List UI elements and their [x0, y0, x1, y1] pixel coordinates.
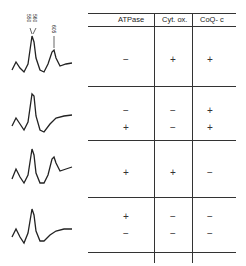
header-cyt-ox: Cyt. ox. — [162, 15, 187, 24]
spectrum-4 — [8, 203, 76, 248]
column-divider-1 — [154, 13, 155, 263]
peak-label-560: 560 — [32, 14, 38, 22]
spectrum-curve-2 — [8, 88, 76, 133]
row4-atpase-a: + — [116, 212, 136, 222]
spectrum-1 — [8, 28, 76, 73]
row1-coqc: + — [200, 55, 220, 65]
spectrum-curve-3 — [8, 143, 76, 188]
row2-coqc-a: + — [200, 106, 220, 116]
row4-coqc-a: − — [200, 212, 220, 222]
row2-cytox-a: − — [163, 106, 183, 116]
table-bottom-rule — [88, 252, 236, 253]
spectrum-curve-1 — [8, 28, 76, 73]
row4-cytox-b: − — [163, 229, 183, 239]
row2-atpase-b: + — [116, 123, 136, 133]
row4-atpase-b: − — [116, 229, 136, 239]
column-divider-2 — [192, 13, 193, 263]
peak-label-605: 605 — [51, 25, 57, 33]
row3-cytox: + — [163, 168, 183, 178]
spectrum-curve-4 — [8, 203, 76, 248]
spectrum-3 — [8, 143, 76, 188]
row-rule-3 — [88, 197, 236, 198]
header-atpase: ATPase — [118, 15, 144, 24]
spectrum-2 — [8, 88, 76, 133]
row1-atpase: − — [116, 55, 136, 65]
row2-cytox-b: − — [163, 123, 183, 133]
header-coq-c: CoQ- c — [200, 15, 224, 24]
row2-atpase-a: − — [116, 106, 136, 116]
header-rule — [88, 26, 236, 27]
row2-coqc-b: + — [200, 123, 220, 133]
row3-atpase: + — [116, 168, 136, 178]
row3-coqc: − — [200, 168, 220, 178]
row-rule-1 — [88, 86, 236, 87]
row4-cytox-a: − — [163, 212, 183, 222]
table-top-rule — [88, 13, 236, 14]
row1-cytox: + — [163, 55, 183, 65]
row-rule-2 — [88, 140, 236, 141]
row4-coqc-b: − — [200, 229, 220, 239]
